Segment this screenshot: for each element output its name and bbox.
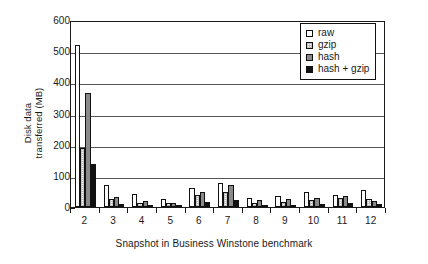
legend-label: raw: [318, 27, 334, 39]
legend-item: hash + gzip: [306, 63, 369, 75]
bar: [291, 205, 296, 207]
bar-group: [243, 22, 272, 207]
legend-item: hash: [306, 51, 369, 63]
x-tick-label: 7: [216, 215, 240, 226]
legend-item: raw: [306, 27, 369, 39]
y-tick-label: 300: [40, 110, 70, 120]
bar: [148, 205, 153, 207]
x-tick-mark: [99, 208, 100, 213]
legend-label: gzip: [318, 39, 336, 51]
chart-figure: Disk data transferred (MB) 0100200300400…: [0, 0, 428, 264]
x-tick-mark: [385, 208, 386, 213]
legend-swatch-icon: [306, 30, 313, 37]
x-tick-label: 3: [101, 215, 125, 226]
y-tick-label: 600: [40, 16, 70, 26]
x-tick-mark: [356, 208, 357, 213]
bar: [234, 200, 239, 207]
y-axis-ticks: 0100200300400500600: [32, 21, 70, 208]
x-tick-mark: [185, 208, 186, 213]
legend-swatch-icon: [306, 42, 313, 49]
legend-swatch-icon: [306, 54, 313, 61]
x-tick-mark: [213, 208, 214, 213]
bar-group: [214, 22, 243, 207]
y-tick-label: 200: [40, 141, 70, 151]
bar-group: [271, 22, 300, 207]
x-tick-label: 6: [187, 215, 211, 226]
x-axis-title: Snapshot in Business Winstone benchmark: [0, 238, 428, 249]
x-tick-label: 11: [330, 215, 354, 226]
bar-group: [128, 22, 157, 207]
y-tick-label: 500: [40, 47, 70, 57]
x-tick-mark: [70, 208, 71, 213]
legend-swatch-icon: [306, 66, 313, 73]
y-tick-label: 0: [40, 203, 70, 213]
x-tick-label: 10: [301, 215, 325, 226]
legend: rawgziphashhash + gzip: [300, 23, 376, 80]
x-tick-label: 12: [359, 215, 383, 226]
legend-item: gzip: [306, 39, 369, 51]
bar-group: [71, 22, 100, 207]
x-tick-label: 5: [158, 215, 182, 226]
bar-group: [157, 22, 186, 207]
legend-label: hash + gzip: [318, 63, 369, 75]
x-tick-mark: [270, 208, 271, 213]
x-tick-mark: [127, 208, 128, 213]
x-tick-mark: [328, 208, 329, 213]
bar: [119, 204, 124, 207]
bar: [320, 204, 325, 207]
x-tick-label: 2: [72, 215, 96, 226]
bar-group: [100, 22, 129, 207]
bar-group: [186, 22, 215, 207]
bar: [262, 205, 267, 207]
x-tick-mark: [299, 208, 300, 213]
legend-label: hash: [318, 51, 340, 63]
x-tick-mark: [156, 208, 157, 213]
x-tick-label: 8: [244, 215, 268, 226]
x-tick-label: 4: [130, 215, 154, 226]
x-axis-ticks: 23456789101112: [70, 208, 385, 232]
bar: [348, 203, 353, 207]
y-tick-label: 100: [40, 172, 70, 182]
bar: [176, 205, 181, 207]
bar: [377, 204, 382, 207]
bar: [91, 164, 96, 207]
y-tick-label: 400: [40, 78, 70, 88]
bar: [205, 202, 210, 207]
x-tick-mark: [242, 208, 243, 213]
x-tick-label: 9: [273, 215, 297, 226]
